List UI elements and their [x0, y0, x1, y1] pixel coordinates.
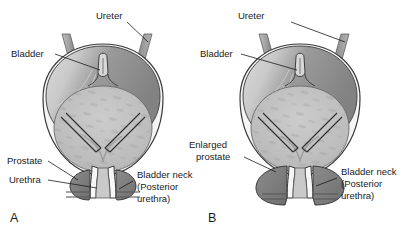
label-ureter-a: Ureter	[96, 10, 122, 21]
bladder-neck-a	[90, 166, 116, 198]
bladder-neck-b	[287, 166, 313, 198]
panel-letter-b: B	[208, 211, 216, 225]
label-bladder-b: Bladder	[200, 48, 233, 59]
svg-text:Enlarged: Enlarged	[189, 139, 227, 150]
svg-text:(Posterior: (Posterior	[341, 178, 382, 189]
label-bladder-a: Bladder	[11, 48, 44, 59]
urethral-lumen-b	[293, 168, 307, 198]
svg-text:Bladder neck: Bladder neck	[341, 166, 397, 177]
svg-text:urethra): urethra)	[341, 190, 374, 201]
panel-letter-a: A	[10, 211, 19, 225]
label-ureter-b: Ureter	[238, 10, 264, 21]
label-prostate-a: Prostate	[7, 155, 42, 166]
urethral-lumen-a	[96, 168, 110, 198]
svg-text:(Posterior: (Posterior	[137, 181, 178, 192]
anatomy-figure: Ureter Bladder Prostate Urethra Bladder …	[0, 0, 414, 232]
svg-text:Bladder neck: Bladder neck	[137, 169, 193, 180]
svg-text:urethra): urethra)	[137, 193, 170, 204]
label-enlarged-prostate-b: Enlarged prostate	[189, 139, 230, 162]
svg-text:prostate: prostate	[196, 151, 230, 162]
label-urethra-a: Urethra	[9, 174, 41, 185]
